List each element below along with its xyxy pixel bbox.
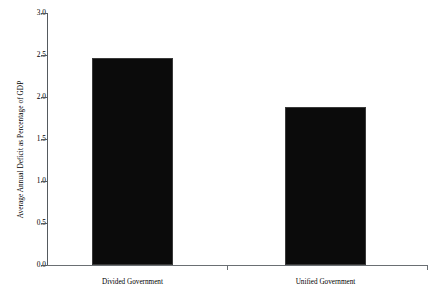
- bar-divided-government: [92, 58, 173, 265]
- y-tick-mark: [41, 55, 47, 56]
- bar-chart: Average Annual Deficit as Percentage of …: [0, 0, 433, 299]
- bar-unified-government: [285, 107, 366, 265]
- x-axis-tick-mid: [227, 266, 228, 270]
- y-tick-mark: [41, 139, 47, 140]
- x-axis-line: [47, 265, 428, 266]
- y-tick-mark: [41, 223, 47, 224]
- x-axis-category-label-divided: Divided Government: [73, 277, 193, 287]
- y-axis-title: Average Annual Deficit as Percentage of …: [14, 0, 28, 299]
- y-tick-mark: [41, 13, 47, 14]
- y-tick-mark: [41, 97, 47, 98]
- x-axis-tick-right: [427, 266, 428, 270]
- y-tick-mark: [41, 181, 47, 182]
- y-axis-line: [47, 13, 48, 265]
- x-axis-category-label-unified: Unified Government: [266, 277, 386, 287]
